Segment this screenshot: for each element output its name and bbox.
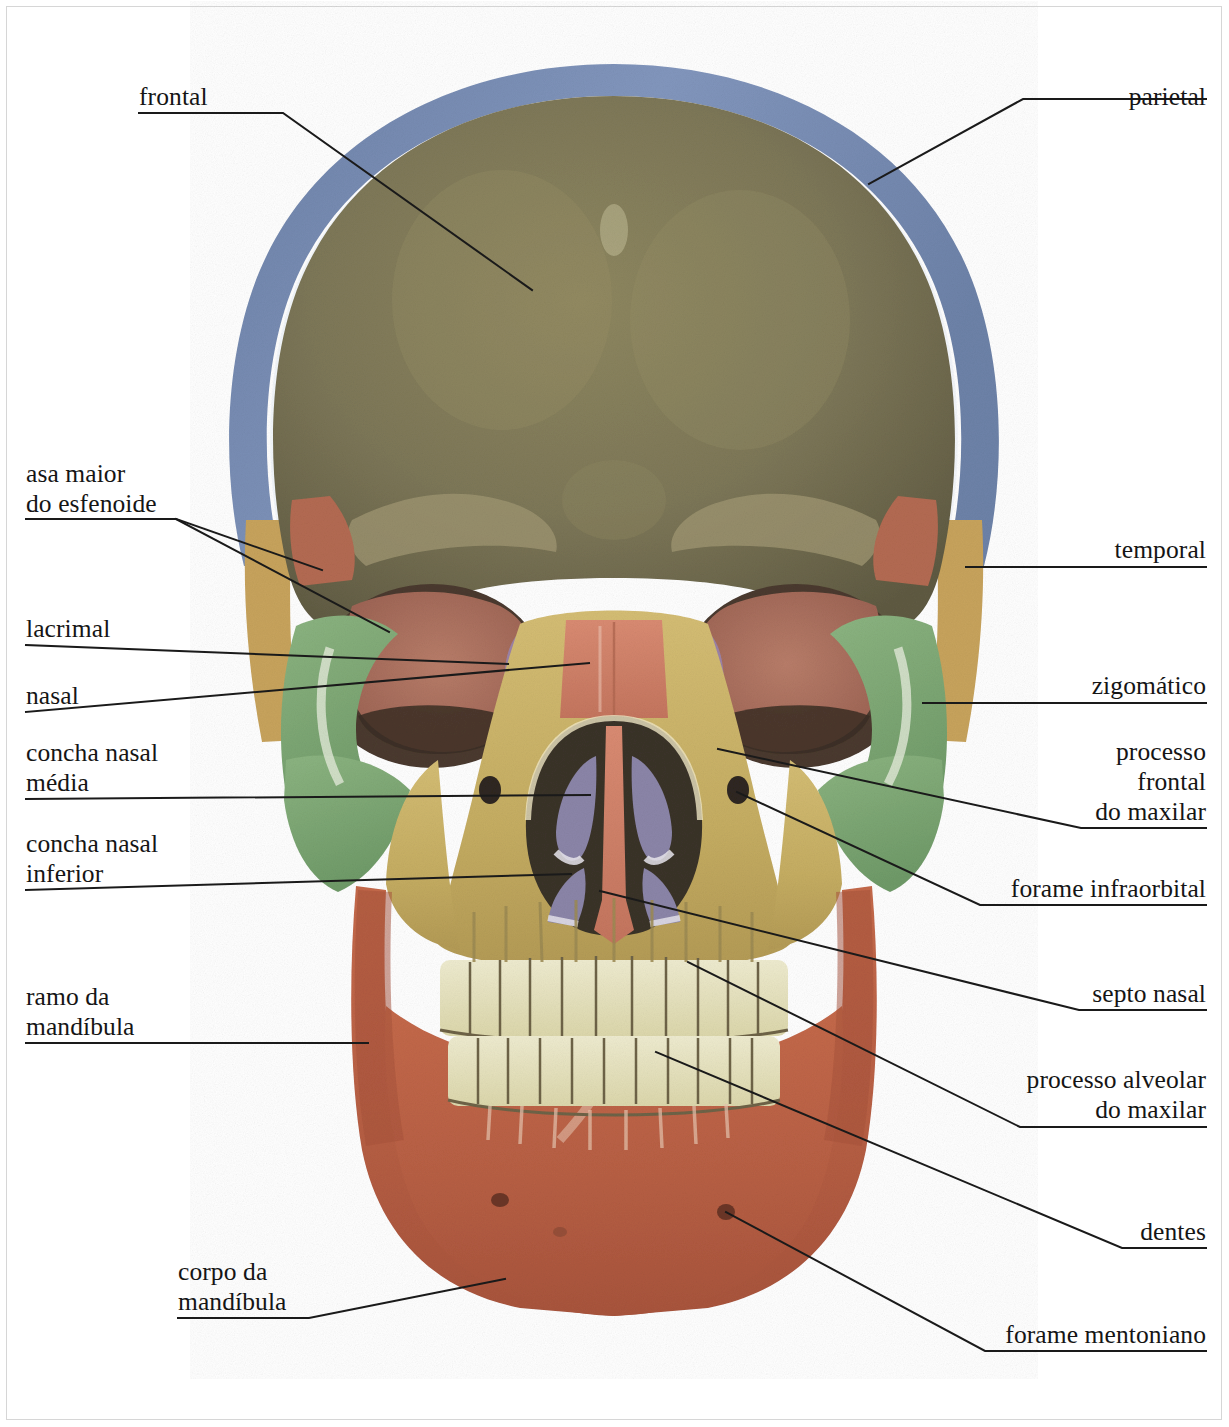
label-processo-alveolar-maxilar: processo alveolar do maxilar [806, 1065, 1206, 1125]
label-concha-nasal-inferior: concha nasal inferior [26, 829, 158, 889]
leader-frontal [139, 113, 532, 290]
label-forame-infraorbital: forame infraorbital [806, 874, 1206, 904]
label-septo-nasal: septo nasal [866, 979, 1206, 1009]
label-concha-nasal-media: concha nasal média [26, 738, 158, 798]
leader-nasal [26, 663, 589, 712]
leader-asa-maior-b [176, 519, 322, 570]
figure-page: frontal asa maior do esfenoide lacrimal … [0, 0, 1229, 1427]
label-parietal: parietal [906, 82, 1206, 112]
label-temporal: temporal [906, 535, 1206, 565]
label-lacrimal: lacrimal [26, 614, 110, 644]
label-nasal: nasal [26, 681, 79, 711]
label-frontal: frontal [139, 82, 208, 112]
leader-lacrimal [26, 645, 508, 664]
label-processo-frontal-maxilar: processo frontal do maxilar [906, 737, 1206, 827]
label-dentes: dentes [906, 1217, 1206, 1247]
label-forame-mentoniano: forame mentoniano [786, 1320, 1206, 1350]
leader-lines [0, 0, 1229, 1427]
label-zigomatico: zigomático [906, 671, 1206, 701]
label-asa-maior-esfenoide: asa maior do esfenoide [26, 459, 157, 519]
label-ramo-da-mandibula: ramo da mandíbula [26, 982, 135, 1042]
label-corpo-da-mandibula: corpo da mandíbula [178, 1257, 287, 1317]
